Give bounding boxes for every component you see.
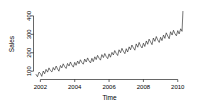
- data-series: [36, 11, 183, 76]
- x-tick-label: 2008: [137, 84, 151, 90]
- x-tick-label: 2010: [171, 84, 185, 90]
- x-tick-label: 2004: [68, 84, 82, 90]
- sales-time-series-chart: 20022004200620082010100200300400TimeSale…: [0, 0, 198, 108]
- axis-labels: 20022004200620082010100200300400TimeSale…: [8, 10, 186, 101]
- x-axis-title: Time: [102, 94, 117, 101]
- y-tick-label: 300: [26, 29, 32, 40]
- series-line-sales: [36, 11, 183, 76]
- y-tick-label: 200: [26, 47, 32, 58]
- chart-figure: 20022004200620082010100200300400TimeSale…: [0, 0, 198, 108]
- axes: [31, 16, 178, 82]
- x-tick-label: 2002: [34, 84, 48, 90]
- y-tick-label: 100: [26, 66, 32, 77]
- y-tick-label: 400: [26, 10, 32, 21]
- x-tick-label: 2006: [102, 84, 116, 90]
- y-axis-title: Sales: [8, 35, 15, 52]
